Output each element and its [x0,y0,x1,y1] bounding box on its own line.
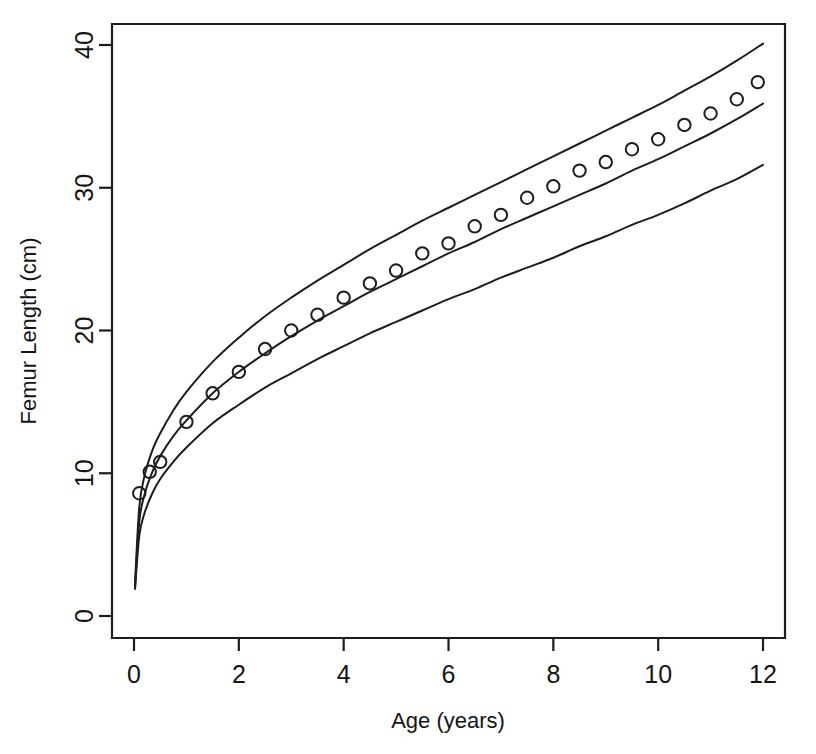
x-tick-label: 12 [749,660,777,688]
plot-frame [112,24,785,638]
data-point-circle [311,309,323,321]
x-axis-tick-labels: 024681012 [127,660,777,688]
data-point-circle [364,277,376,289]
data-point-circle [731,93,743,105]
y-tick-label: 30 [70,174,98,202]
data-point-circle [469,220,481,232]
femur-length-growth-chart: 024681012 010203040 Age (years) Femur Le… [0,0,816,754]
x-tick-label: 0 [127,660,141,688]
data-point-circle [704,107,716,119]
y-tick-label: 20 [70,317,98,345]
data-point-circle [337,291,349,303]
percentile-curves [135,44,763,589]
x-tick-label: 6 [442,660,456,688]
percentile-curve [135,44,763,584]
x-tick-label: 8 [546,660,560,688]
y-tick-label: 10 [70,459,98,487]
data-point-circle [416,247,428,259]
chart-canvas: 024681012 010203040 Age (years) Femur Le… [0,0,816,754]
data-point-circle [600,156,612,168]
data-point-circle [521,192,533,204]
y-axis-title: Femur Length (cm) [16,237,41,424]
x-tick-label: 2 [232,660,246,688]
data-point-circle [495,209,507,221]
data-point-circle [133,487,145,499]
data-point-circle [390,264,402,276]
data-point-circle [626,143,638,155]
data-points [133,76,764,500]
data-point-circle [652,133,664,145]
x-tick-label: 4 [337,660,351,688]
data-point-circle [547,180,559,192]
x-axis-ticks [134,638,763,651]
data-point-circle [442,237,454,249]
y-axis-tick-labels: 010203040 [70,31,98,623]
y-tick-label: 0 [70,609,98,623]
percentile-curve [135,165,763,589]
data-point-circle [573,164,585,176]
x-axis-title: Age (years) [391,708,505,733]
x-tick-label: 10 [644,660,672,688]
y-axis-ticks [99,45,112,616]
data-point-circle [285,324,297,336]
data-point-circle [678,119,690,131]
y-tick-label: 40 [70,31,98,59]
data-point-circle [752,76,764,88]
